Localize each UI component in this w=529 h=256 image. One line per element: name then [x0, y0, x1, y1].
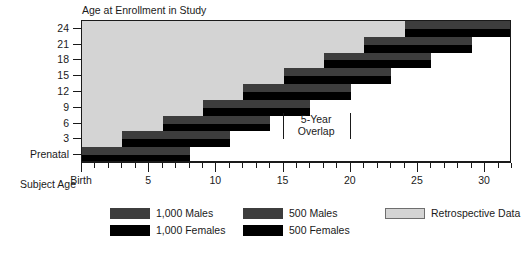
x-axis-tick — [269, 163, 270, 168]
cohort-bar-male — [243, 84, 351, 92]
x-axis-tick — [430, 163, 431, 168]
y-axis-tick-label: 15 — [0, 69, 69, 81]
legend-swatch-light-gray — [385, 208, 425, 219]
x-axis-tick — [390, 163, 391, 168]
legend-swatch-black — [110, 225, 150, 236]
x-axis-tick-label: 25 — [411, 174, 423, 186]
x-axis-tick-label: 5 — [145, 174, 151, 186]
y-axis-tick — [73, 75, 81, 76]
y-axis-tick — [73, 107, 81, 108]
y-axis-tick — [73, 59, 81, 60]
plot-right-spine — [510, 20, 512, 162]
legend-item: 500 Males — [243, 207, 337, 219]
x-axis-tick — [242, 163, 243, 168]
y-axis-tick-label: 3 — [0, 132, 69, 144]
overlap-bracket-right — [350, 113, 351, 139]
cohort-bar-male — [82, 147, 190, 155]
cohort-bar-male — [364, 37, 472, 45]
x-axis-tick-label: Birth — [70, 174, 92, 186]
x-axis-tick — [363, 163, 364, 168]
x-axis-tick — [309, 163, 310, 168]
x-axis-tick — [457, 163, 458, 168]
legend-label: 1,000 Females — [156, 224, 225, 236]
x-axis-tick — [377, 163, 378, 168]
y-axis-tick — [73, 28, 81, 29]
chart-legend: 1,000 Males1,000 Females500 Males500 Fem… — [0, 205, 529, 255]
y-axis-tick-label: 21 — [0, 38, 69, 50]
legend-swatch-dark-gray — [243, 208, 283, 219]
retrospective-band — [82, 21, 405, 37]
y-axis-tick-label: 6 — [0, 117, 69, 129]
overlap-bracket-left — [283, 113, 284, 139]
cohort-bar-male — [163, 116, 271, 124]
legend-item: 1,000 Females — [110, 224, 225, 236]
cohort-bar-female — [284, 76, 392, 84]
y-axis-tick-label: 9 — [0, 101, 69, 113]
cohort-bar-male — [122, 131, 230, 139]
y-axis-tick — [73, 91, 81, 92]
x-axis-tick — [256, 163, 257, 168]
x-axis-tick — [94, 163, 95, 168]
cohort-bar-female — [364, 45, 472, 53]
x-axis-tick — [135, 163, 136, 168]
x-axis-tick — [202, 163, 203, 168]
legend-swatch-dark-gray — [110, 208, 150, 219]
y-axis-tick-label: 18 — [0, 53, 69, 65]
x-axis-tick-label: 30 — [478, 174, 490, 186]
x-axis-tick — [121, 163, 122, 168]
x-axis-tick — [350, 163, 351, 172]
y-axis-tick — [73, 154, 81, 155]
cohort-bar-male — [203, 100, 311, 108]
x-axis-tick — [444, 163, 445, 168]
legend-label: 500 Males — [289, 207, 337, 219]
x-axis-tick — [162, 163, 163, 168]
x-axis-tick — [81, 163, 82, 172]
x-axis-tick — [296, 163, 297, 168]
x-axis-tick — [229, 163, 230, 168]
x-axis-tick — [108, 163, 109, 168]
y-axis-tick — [73, 138, 81, 139]
legend-label: 1,000 Males — [156, 207, 213, 219]
cohort-bar-female — [203, 108, 311, 116]
x-axis-tick — [189, 163, 190, 168]
cohort-bar-female — [122, 139, 230, 147]
legend-item: 1,000 Males — [110, 207, 213, 219]
legend-item: Retrospective Data — [385, 207, 520, 219]
x-axis-tick — [175, 163, 176, 168]
y-axis-tick-label: Prenatal — [0, 148, 69, 160]
x-axis-tick — [417, 163, 418, 172]
x-axis-tick-label: 15 — [277, 174, 289, 186]
cohort-bar-female — [243, 92, 351, 100]
x-axis-tick — [511, 163, 512, 168]
x-axis-tick — [323, 163, 324, 168]
legend-swatch-black — [243, 225, 283, 236]
y-axis-tick-label: 12 — [0, 85, 69, 97]
x-axis-tick — [283, 163, 284, 172]
x-axis-tick — [336, 163, 337, 168]
cohort-bar-female — [405, 29, 512, 37]
cohort-bar-male — [284, 68, 392, 76]
y-axis-tick — [73, 44, 81, 45]
y-axis-tick — [73, 123, 81, 124]
legend-label: 500 Females — [289, 224, 350, 236]
overlap-label: 5-Year Overlap — [298, 114, 335, 137]
y-axis-tick-label: 24 — [0, 22, 69, 34]
x-axis-tick — [215, 163, 216, 172]
y-axis-title: Age at Enrollment in Study — [82, 4, 206, 16]
x-axis-tick — [484, 163, 485, 172]
cohort-bar-male — [324, 53, 432, 61]
x-axis-tick — [498, 163, 499, 168]
x-axis-tick-label: 20 — [344, 174, 356, 186]
cohort-bar-female — [163, 124, 271, 132]
x-axis-title: Subject Age — [20, 178, 76, 190]
cohort-bar-male — [405, 21, 512, 29]
x-axis-tick — [148, 163, 149, 172]
x-axis-tick-label: 10 — [210, 174, 222, 186]
chart-figure: Age at Enrollment in Study Subject Age B… — [0, 0, 529, 256]
x-axis-tick — [404, 163, 405, 168]
legend-label: Retrospective Data — [431, 207, 520, 219]
x-axis-tick — [471, 163, 472, 168]
plot-area — [81, 20, 511, 162]
cohort-bar-female — [324, 60, 432, 68]
legend-item: 500 Females — [243, 224, 350, 236]
